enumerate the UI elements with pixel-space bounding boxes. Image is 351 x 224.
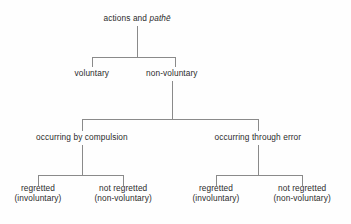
node-compulsion-not-regretted-line2: (non-voluntary) bbox=[95, 193, 152, 204]
node-root: actions and pathē bbox=[104, 13, 171, 24]
node-error-not-regretted-line1: not regretted bbox=[274, 183, 331, 194]
node-root-text-plain: actions and bbox=[104, 13, 150, 23]
node-occurring-by-compulsion: occurring by compulsion bbox=[36, 132, 128, 143]
node-occurring-through-error-label: occurring through error bbox=[215, 132, 302, 143]
node-error-regretted: regretted (involuntary) bbox=[193, 183, 240, 204]
node-compulsion-regretted-line2: (involuntary) bbox=[15, 193, 62, 204]
node-error-regretted-line1: regretted bbox=[193, 183, 240, 194]
node-root-line1: actions and pathē bbox=[104, 13, 171, 24]
node-compulsion-regretted: regretted (involuntary) bbox=[15, 183, 62, 204]
node-occurring-by-compulsion-label: occurring by compulsion bbox=[36, 132, 128, 143]
node-voluntary: voluntary bbox=[75, 68, 110, 79]
node-compulsion-not-regretted: not regretted (non-voluntary) bbox=[95, 183, 152, 204]
node-occurring-through-error: occurring through error bbox=[215, 132, 302, 143]
node-error-regretted-line2: (involuntary) bbox=[193, 193, 240, 204]
node-non-voluntary: non-voluntary bbox=[146, 68, 198, 79]
node-error-not-regretted: not regretted (non-voluntary) bbox=[274, 183, 331, 204]
node-root-text-italic: pathē bbox=[149, 13, 170, 23]
node-compulsion-regretted-line1: regretted bbox=[15, 183, 62, 194]
node-voluntary-label: voluntary bbox=[75, 68, 110, 79]
node-error-not-regretted-line2: (non-voluntary) bbox=[274, 193, 331, 204]
tree-diagram-canvas: actions and pathē voluntary non-voluntar… bbox=[0, 0, 351, 224]
node-compulsion-not-regretted-line1: not regretted bbox=[95, 183, 152, 194]
node-non-voluntary-label: non-voluntary bbox=[146, 68, 198, 79]
